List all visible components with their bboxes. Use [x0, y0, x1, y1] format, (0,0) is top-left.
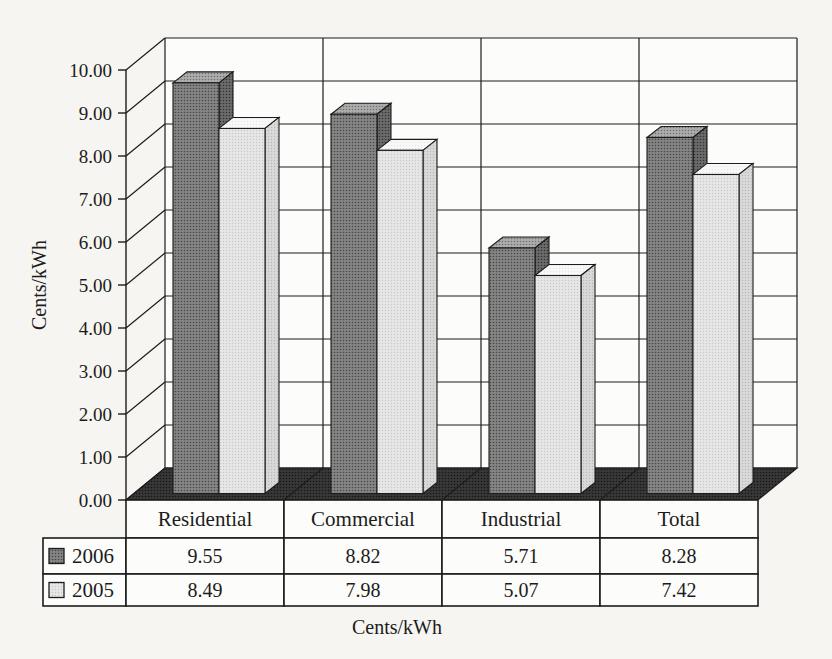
- sidewall-gridline: [126, 253, 165, 285]
- sidewall-gridline: [126, 425, 165, 457]
- value-2005-commercial: 7.98: [346, 579, 381, 601]
- sidewall-gridline: [126, 81, 165, 113]
- sidewall-gridline: [126, 124, 165, 156]
- sidewall-gridline: [126, 382, 165, 414]
- bar-2005-residential: [219, 117, 279, 493]
- scanned-chart-page: 0.001.002.003.004.005.006.007.008.009.00…: [0, 0, 832, 659]
- bar-2005-industrial-side: [581, 264, 595, 493]
- bar-2005-residential-front: [219, 128, 265, 493]
- sidewall-gridline: [126, 339, 165, 371]
- value-2005-residential: 8.49: [188, 579, 223, 601]
- legend-label-2005: 2005: [72, 578, 114, 602]
- y-tick-label: 5.00: [79, 275, 112, 296]
- bar-2005-commercial-side: [423, 139, 437, 493]
- bar-2005-residential-side: [265, 117, 279, 493]
- category-label: Residential: [158, 507, 253, 531]
- value-2006-industrial: 5.71: [504, 545, 539, 567]
- bar-2006-total-front: [647, 137, 693, 493]
- bar-2005-total: [693, 163, 753, 493]
- value-2006-residential: 9.55: [188, 545, 223, 567]
- y-axis: 0.001.002.003.004.005.006.007.008.009.00…: [69, 60, 126, 511]
- y-tick-label: 9.00: [79, 103, 112, 124]
- legend-swatch-2005: [49, 583, 64, 598]
- bar-2005-industrial-front: [535, 275, 581, 493]
- category-label: Industrial: [481, 507, 562, 531]
- y-axis-title: Cents/kWh: [28, 240, 50, 330]
- bar-2005-total-front: [693, 174, 739, 493]
- x-axis-title: Cents/kWh: [352, 616, 442, 638]
- category-label: Total: [658, 507, 701, 531]
- bar-2005-commercial-front: [377, 150, 423, 493]
- bar-2006-industrial-front: [489, 248, 535, 494]
- bar-2005-commercial: [377, 139, 437, 493]
- bar-2006-residential-front: [173, 83, 219, 494]
- y-tick-label: 2.00: [79, 404, 112, 425]
- legend-swatch-2006: [49, 549, 64, 564]
- y-tick-label: 4.00: [79, 318, 112, 339]
- y-tick-label: 3.00: [79, 361, 112, 382]
- y-tick-label: 0.00: [79, 490, 112, 511]
- value-2006-total: 8.28: [662, 545, 697, 567]
- value-2005-total: 7.42: [662, 579, 697, 601]
- bar-chart-3d: 0.001.002.003.004.005.006.007.008.009.00…: [0, 0, 832, 659]
- sidewall-gridline: [126, 210, 165, 242]
- sidewall-gridline: [126, 167, 165, 199]
- category-label: Commercial: [311, 507, 415, 531]
- bar-2005-industrial: [535, 264, 595, 493]
- bar-2006-commercial-front: [331, 114, 377, 493]
- y-tick-label: 1.00: [79, 447, 112, 468]
- bar-2005-total-side: [739, 163, 753, 493]
- legend-label-2006: 2006: [72, 544, 114, 568]
- sidewall-gridline: [126, 38, 165, 70]
- sidewall-gridline: [126, 296, 165, 328]
- y-tick-label: 8.00: [79, 146, 112, 167]
- y-tick-label: 6.00: [79, 232, 112, 253]
- y-tick-label: 10.00: [69, 60, 112, 81]
- y-tick-label: 7.00: [79, 189, 112, 210]
- data-table: ResidentialCommercialIndustrialTotal2006…: [43, 500, 758, 606]
- value-2006-commercial: 8.82: [346, 545, 381, 567]
- value-2005-industrial: 5.07: [504, 579, 539, 601]
